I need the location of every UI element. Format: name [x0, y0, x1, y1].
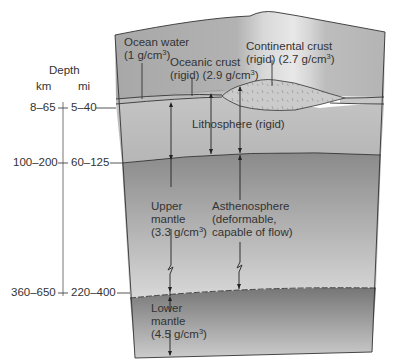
depth-marker-km-3: 360–650	[11, 286, 56, 298]
lithosphere-label: Lithosphere (rigid)	[192, 118, 285, 131]
depth-marker-km-1: 8–65	[30, 101, 56, 113]
depth-title: Depth	[49, 64, 80, 76]
continental-crust-label: Continental crust (rigid) (2.7 g/cm3)	[246, 40, 335, 66]
depth-unit-km: km	[36, 80, 51, 92]
depth-marker-km-2: 100–200	[13, 156, 58, 168]
depth-unit-mi: mi	[78, 80, 90, 92]
depth-marker-mi-3: 220–400	[71, 286, 116, 298]
upper-mantle-label: Upper mantle (3.3 g/cm3)	[151, 200, 207, 239]
lower-mantle-label: Lower mantle (4.5 g/cm3)	[151, 302, 207, 341]
asthenosphere-label: Asthenosphere (deformable, capable of fl…	[212, 200, 293, 239]
depth-marker-mi-1: 5–40	[71, 101, 97, 113]
depth-marker-mi-2: 60–125	[71, 156, 109, 168]
